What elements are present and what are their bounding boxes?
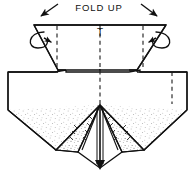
fold-up-label: FOLD UP <box>75 2 122 13</box>
origami-fold-diagram: T FOLD UP <box>0 0 195 180</box>
center-tick-mark: T <box>97 27 103 38</box>
diagram-canvas: T FOLD UP <box>0 0 195 180</box>
center-tick-label: T <box>97 27 103 38</box>
right-fold-arrow <box>141 4 157 16</box>
left-fold-arrow <box>41 4 58 16</box>
